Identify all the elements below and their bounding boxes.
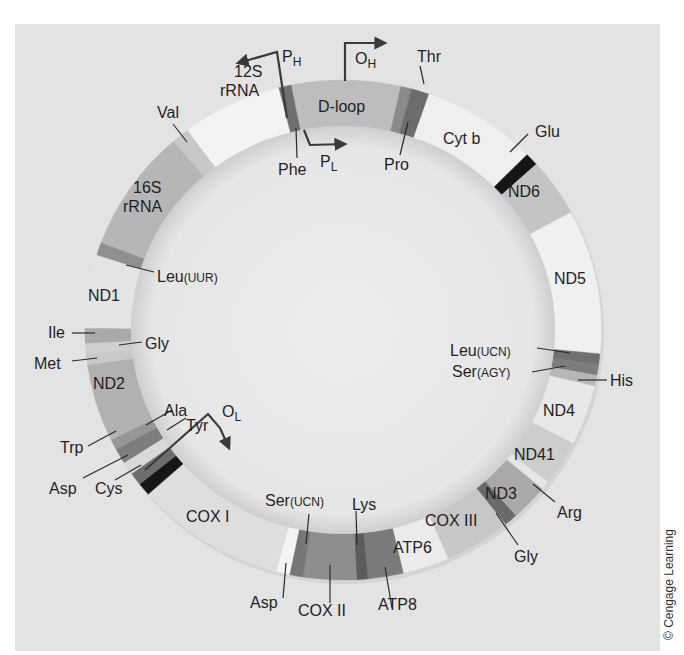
label-leu-uur: Leu(UUR) <box>157 268 218 285</box>
label-val: Val <box>157 104 179 121</box>
label-phe: Phe <box>278 161 307 178</box>
label-pro: Pro <box>384 156 409 173</box>
label-nd1: ND1 <box>88 287 120 304</box>
label-trp: Trp <box>60 439 84 456</box>
label-arg: Arg <box>557 504 582 521</box>
label-nd41: ND41 <box>514 446 555 463</box>
label-asp-bottom: Asp <box>250 594 278 611</box>
oh-label: OH <box>355 50 376 71</box>
ph-label: PH <box>282 48 301 69</box>
label-nd5: ND5 <box>554 270 586 287</box>
label-leu-ucn: Leu(UCN) <box>450 342 511 359</box>
label-cox-ii: COX II <box>298 602 346 619</box>
label-his: His <box>610 372 633 389</box>
label-atp6: ATP6 <box>393 539 432 556</box>
label-ile: Ile <box>48 324 65 341</box>
label-ser-agy: Ser(AGY) <box>452 363 510 380</box>
segment-ile <box>85 328 131 343</box>
label-cyt-b: Cyt b <box>443 130 480 147</box>
label-cys: Cys <box>95 480 123 497</box>
label-glu: Glu <box>535 123 560 140</box>
label-nd2: ND2 <box>93 375 125 392</box>
label-cox-i: COX I <box>186 508 230 525</box>
label-16s-rrna-line2: rRNA <box>123 198 162 215</box>
label-thr: Thr <box>417 48 442 65</box>
label-12s-rrna-line1: 12S <box>234 63 262 80</box>
label-met: Met <box>34 355 61 372</box>
label-16s-rrna-line1: 16S <box>133 179 161 196</box>
label-12s-rrna-line2: rRNA <box>220 82 259 99</box>
label-gly-left: Gly <box>145 335 169 352</box>
label-atp8: ATP8 <box>378 596 417 613</box>
label-nd4: ND4 <box>543 402 575 419</box>
label-ala: Ala <box>164 402 187 419</box>
label-lys: Lys <box>352 496 376 513</box>
label-nd6: ND6 <box>508 183 540 200</box>
inner-disc <box>131 126 555 534</box>
label-tyr: Tyr <box>186 417 209 434</box>
label-nd3: ND3 <box>485 485 517 502</box>
mtdna-ring-diagram: PH PL OH OL D-loop 12S rRNA 16S rRNA Val… <box>0 0 684 655</box>
label-ser-ucn: Ser(UCN) <box>265 492 324 509</box>
label-asp-left: Asp <box>49 480 77 497</box>
copyright-credit: © Cengage Learning <box>662 529 676 640</box>
label-cox-iii: COX III <box>425 512 477 529</box>
label-gly-right: Gly <box>514 548 538 565</box>
label-d-loop: D-loop <box>318 98 365 115</box>
